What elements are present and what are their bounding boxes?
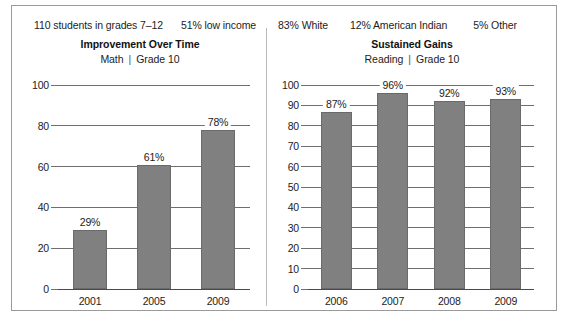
y-axis-tick [301, 166, 308, 167]
y-axis-label: 80 [272, 120, 299, 132]
chart-subtitle-right: Reading|Grade 10 [268, 53, 556, 65]
bar-value-label: 78% [205, 116, 231, 128]
chart-grade-right: Grade 10 [416, 53, 459, 65]
subtitle-separator-left: | [124, 53, 137, 65]
bar-value-label: 96% [380, 79, 406, 91]
y-axis-tick [301, 207, 308, 208]
y-axis-tick [301, 289, 308, 290]
chart-grade-left: Grade 10 [136, 53, 179, 65]
screenshot-root: 110 students in grades 7–12 51% low inco… [0, 0, 568, 322]
bar [73, 230, 106, 289]
demographic-white: 83% White [278, 19, 328, 31]
y-axis-tick [51, 248, 58, 249]
y-axis-label: 40 [272, 201, 299, 213]
y-axis-label: 20 [18, 242, 49, 254]
y-axis-label: 80 [18, 120, 49, 132]
y-axis-tick [51, 207, 58, 208]
y-axis-label: 90 [272, 99, 299, 111]
y-axis-label: 100 [272, 79, 299, 91]
chart-improvement-over-time: Improvement Over Time Math|Grade 10 0204… [14, 32, 266, 306]
bar-value-label: 87% [323, 98, 349, 110]
chart-title-right: Sustained Gains [268, 38, 556, 50]
chart-divider [266, 28, 267, 306]
chart-subtitle-left: Math|Grade 10 [14, 53, 266, 65]
bar-value-label: 61% [141, 151, 167, 163]
y-axis-label: 0 [272, 283, 299, 295]
x-axis-label: 2005 [143, 295, 166, 307]
y-axis-label: 30 [272, 222, 299, 234]
y-axis-label: 100 [18, 79, 49, 91]
chart-sustained-gains: Sustained Gains Reading|Grade 10 0102030… [268, 32, 556, 306]
bar-value-label: 92% [436, 87, 462, 99]
y-axis-label: 10 [272, 263, 299, 275]
bar-value-label: 93% [493, 85, 519, 97]
y-axis-label: 20 [272, 242, 299, 254]
y-axis-tick [51, 289, 58, 290]
plot-area-right: 010203040506070809010087%200696%200792%2… [308, 85, 534, 289]
chart-subject-right: Reading [365, 53, 404, 65]
y-axis-label: 60 [272, 161, 299, 173]
chart-panel: 110 students in grades 7–12 51% low inco… [11, 5, 557, 311]
y-axis-tick [51, 85, 58, 86]
y-axis-tick [301, 248, 308, 249]
plot-area-left: 02040608010029%200161%200578%2009 [58, 85, 250, 289]
bar [434, 101, 465, 289]
bar [321, 112, 352, 289]
x-axis-label: 2007 [381, 295, 404, 307]
y-axis-tick [301, 105, 308, 106]
bar [137, 165, 170, 289]
y-axis-tick [301, 85, 308, 86]
x-axis-label: 2006 [325, 295, 348, 307]
y-axis-label: 40 [18, 201, 49, 213]
demographic-enrollment: 110 students in grades 7–12 [34, 19, 163, 31]
demographic-low-income: 51% low income [181, 19, 256, 31]
y-axis-label: 50 [272, 181, 299, 193]
bar [377, 93, 408, 289]
y-axis-label: 70 [272, 140, 299, 152]
y-axis-label: 0 [18, 283, 49, 295]
y-axis-tick [301, 227, 308, 228]
y-axis-tick [51, 125, 58, 126]
demographic-american-indian: 12% American Indian [350, 19, 447, 31]
x-axis-label: 2008 [438, 295, 461, 307]
bar [201, 130, 234, 289]
y-axis-label: 60 [18, 161, 49, 173]
y-axis-tick [301, 187, 308, 188]
y-axis-tick [301, 146, 308, 147]
y-axis-tick [301, 268, 308, 269]
chart-title-left: Improvement Over Time [14, 38, 266, 50]
chart-subject-left: Math [100, 53, 123, 65]
bar-value-label: 29% [77, 216, 103, 228]
bar [490, 99, 521, 289]
y-axis-tick [51, 166, 58, 167]
x-axis-label: 2001 [79, 295, 102, 307]
demographic-other: 5% Other [473, 19, 517, 31]
x-axis-label: 2009 [494, 295, 517, 307]
y-axis-tick [301, 125, 308, 126]
gridline [58, 85, 250, 86]
subtitle-separator-right: | [403, 53, 416, 65]
x-axis-label: 2009 [207, 295, 230, 307]
